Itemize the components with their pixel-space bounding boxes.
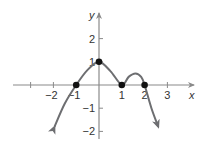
marked-point xyxy=(141,82,148,89)
marked-point xyxy=(73,82,80,89)
x-tick-label: −2 xyxy=(45,89,58,101)
y-tick-label: 2 xyxy=(89,33,95,45)
y-tick-label: −1 xyxy=(82,102,95,114)
x-axis-label: x xyxy=(188,89,195,101)
x-tick-label: 3 xyxy=(164,89,170,101)
x-tick-label: 1 xyxy=(119,89,125,101)
marked-point xyxy=(96,59,103,66)
y-tick-label: −2 xyxy=(82,125,95,137)
marked-point xyxy=(119,82,126,89)
y-axis-label: y xyxy=(88,9,96,21)
function-graph: −2−1123 −2−112 x y xyxy=(0,0,203,154)
